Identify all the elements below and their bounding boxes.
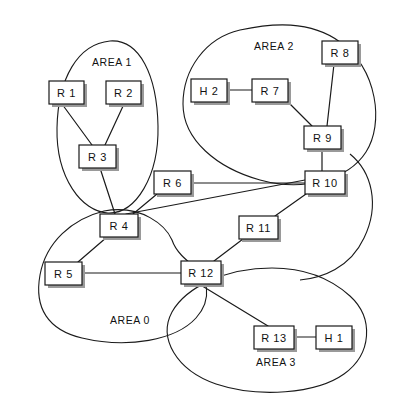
link-r12-r13 [199,284,268,326]
link-r4-r5 [78,237,107,262]
link-r8-r9 [327,64,334,126]
node-label-r7: R 7 [261,85,280,97]
node-r7[interactable]: R 7 [252,79,291,105]
node-label-r11: R 11 [246,222,271,234]
node-label-r2: R 2 [114,87,133,99]
node-r6[interactable]: R 6 [154,171,194,197]
node-h1[interactable]: H 1 [316,326,355,352]
node-r12[interactable]: R 12 [181,261,224,287]
node-r10[interactable]: R 10 [305,171,348,197]
diagram-canvas: R 1R 2R 3R 4R 5R 6H 2R 7R 8R 9R 10R 11R … [0,0,401,403]
node-r5[interactable]: R 5 [45,262,85,288]
node-label-r6: R 6 [163,177,182,189]
node-label-r13: R 13 [261,332,287,344]
nodes-layer: R 1R 2R 3R 4R 5R 6H 2R 7R 8R 9R 10R 11R … [45,41,361,352]
node-label-r10: R 10 [312,177,338,189]
link-r1-r3 [62,104,92,145]
link-r2-r3 [105,104,124,145]
network-topology-diagram: R 1R 2R 3R 4R 5R 6H 2R 7R 8R 9R 10R 11R … [0,0,401,403]
link-r3-r4 [100,168,115,214]
area-label-area-0: AREA 0 [110,314,150,326]
node-r11[interactable]: R 11 [239,216,281,242]
node-h2[interactable]: H 2 [191,79,230,105]
node-r9[interactable]: R 9 [304,126,344,152]
node-label-h2: H 2 [200,85,219,97]
node-label-r1: R 1 [57,87,76,99]
node-label-r12: R 12 [188,267,214,279]
area-label-area-1: AREA 1 [92,56,132,68]
link-r11-r12 [214,239,243,261]
node-label-r8: R 8 [331,47,350,59]
node-r8[interactable]: R 8 [322,41,361,67]
node-r3[interactable]: R 3 [79,145,119,171]
link-r7-r9 [288,102,312,126]
node-label-r4: R 4 [110,220,129,232]
node-label-h1: H 1 [325,332,344,344]
node-label-r9: R 9 [313,132,332,144]
link-r10-r11 [275,194,306,216]
area-label-area-2: AREA 2 [254,40,294,52]
node-label-r3: R 3 [88,151,107,163]
node-r1[interactable]: R 1 [49,81,87,107]
node-label-r5: R 5 [54,268,73,280]
node-r13[interactable]: R 13 [254,326,297,352]
area-label-area-3: AREA 3 [256,356,296,368]
node-r2[interactable]: R 2 [106,81,144,107]
node-r4[interactable]: R 4 [100,214,141,240]
